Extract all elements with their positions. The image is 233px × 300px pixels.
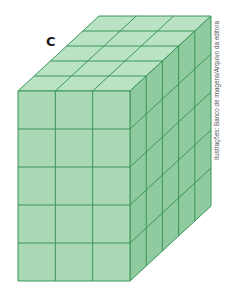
cube-prism-drawing [0, 0, 233, 300]
figure-label: C [46, 34, 56, 49]
front-face [18, 91, 130, 281]
image-credit: Ilustrações: Banco de imagens/Arquivo da… [213, 10, 223, 160]
image-credit-text: Ilustrações: Banco de imagens/Arquivo da… [213, 21, 220, 160]
